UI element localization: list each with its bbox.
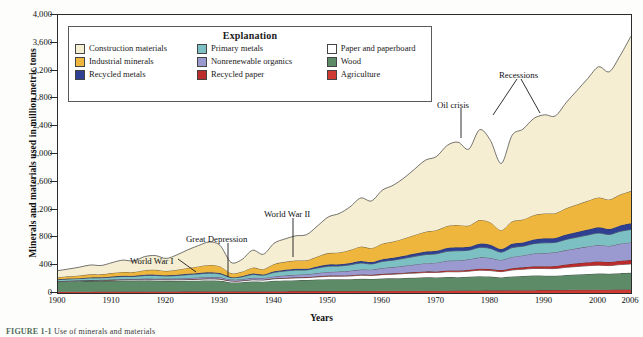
figure-container: Minerals and materials used in million m… [0, 0, 643, 337]
y-tick-label: 400 [0, 259, 52, 269]
chart-annotation: Great Depression [186, 234, 247, 244]
legend-swatch-icon [197, 70, 207, 80]
caption-text: Use of minerals and materials [54, 327, 155, 336]
legend-item-label: Recycled paper [211, 69, 264, 80]
x-tick-label: 1990 [535, 295, 552, 305]
legend-swatch-icon [327, 70, 337, 80]
y-tick-label: 0 [0, 287, 52, 297]
y-tick-label: 1,200 [0, 204, 52, 214]
y-tick-mark [50, 292, 57, 293]
chart-annotation: World War I [130, 256, 173, 266]
y-tick-label: 800 [0, 231, 52, 241]
y-tick-label: 3,200 [0, 65, 52, 75]
x-tick-label: 1940 [265, 295, 282, 305]
legend-swatch-icon [75, 44, 85, 54]
x-tick-label: 1960 [373, 295, 390, 305]
legend-item-label: Agriculture [341, 69, 381, 80]
legend-swatch-icon [197, 44, 207, 54]
legend-swatch-icon [327, 44, 337, 54]
x-tick-label: 1930 [211, 295, 228, 305]
y-tick-label: 4,000 [0, 9, 52, 19]
legend-swatch-icon [197, 57, 207, 67]
legend-item-label: Nonrenewable organics [211, 56, 292, 67]
x-tick-label: 2006 [621, 295, 638, 305]
legend-swatch-icon [327, 57, 337, 67]
y-tick-mark [50, 97, 57, 98]
legend-column: Construction materialsIndustrial mineral… [75, 43, 197, 80]
x-tick-label: 2000 [589, 295, 606, 305]
legend-item-label: Paper and paperboard [341, 43, 416, 54]
legend-item[interactable]: Primary metals [197, 43, 327, 54]
x-tick-label: 1920 [157, 295, 174, 305]
y-tick-label: 3,600 [0, 37, 52, 47]
y-tick-mark [50, 181, 57, 182]
x-tick-label: 1910 [102, 295, 119, 305]
y-tick-mark [50, 70, 57, 71]
x-tick-label: 1950 [319, 295, 336, 305]
x-tick-label: 1970 [427, 295, 444, 305]
y-tick-mark [50, 153, 57, 154]
legend-item[interactable]: Nonrenewable organics [197, 56, 327, 67]
x-tick-label: 1980 [481, 295, 498, 305]
x-axis-title: Years [0, 313, 643, 323]
legend-item-label: Industrial minerals [89, 56, 154, 67]
caption-label: FIGURE 1-1 [6, 327, 52, 336]
y-tick-label: 2,800 [0, 92, 52, 102]
x-tick-label: 1900 [48, 295, 65, 305]
legend-item[interactable]: Wood [327, 56, 425, 67]
y-tick-label: 1,600 [0, 176, 52, 186]
legend-swatch-icon [75, 70, 85, 80]
chart-annotation: Oil crisis [437, 100, 469, 110]
y-tick-label: 2,000 [0, 148, 52, 158]
legend-item[interactable]: Industrial minerals [75, 56, 197, 67]
legend-title: Explanation [69, 30, 431, 41]
y-tick-mark [50, 42, 57, 43]
chart-annotation: Recessions [499, 70, 538, 80]
legend-column: Primary metalsNonrenewable organicsRecyc… [197, 43, 327, 80]
legend-item-label: Construction materials [89, 43, 167, 54]
legend-item[interactable]: Construction materials [75, 43, 197, 54]
y-tick-mark [50, 125, 57, 126]
y-tick-mark [50, 14, 57, 15]
legend-item-label: Recycled metals [89, 69, 146, 80]
legend-columns: Construction materialsIndustrial mineral… [69, 43, 431, 80]
legend-item-label: Wood [341, 56, 361, 67]
y-tick-mark [50, 264, 57, 265]
y-tick-mark [50, 209, 57, 210]
legend-item[interactable]: Agriculture [327, 69, 425, 80]
legend-box: Explanation Construction materialsIndust… [68, 26, 432, 102]
legend-item[interactable]: Recycled metals [75, 69, 197, 80]
legend-column: Paper and paperboardWoodAgriculture [327, 43, 425, 80]
legend-item[interactable]: Paper and paperboard [327, 43, 425, 54]
figure-caption: FIGURE 1-1 Use of minerals and materials [6, 327, 155, 336]
y-tick-label: 2,400 [0, 120, 52, 130]
legend-item[interactable]: Recycled paper [197, 69, 327, 80]
legend-swatch-icon [75, 57, 85, 67]
legend-item-label: Primary metals [211, 43, 263, 54]
y-tick-mark [50, 236, 57, 237]
chart-annotation: World War II [264, 209, 310, 219]
